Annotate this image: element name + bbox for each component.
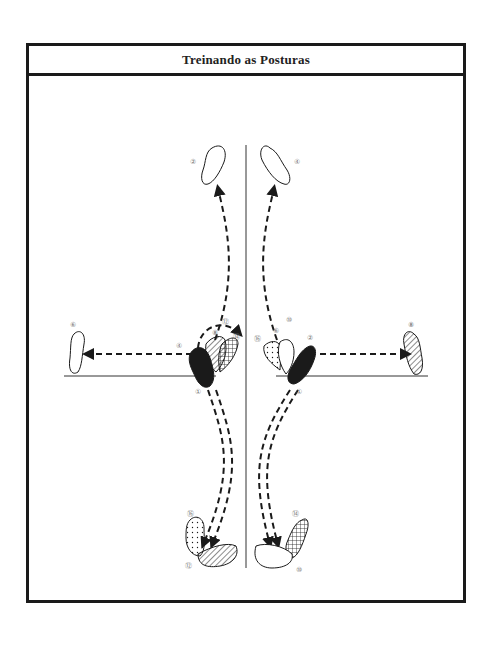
label-16-center: ⑯ [254, 335, 261, 343]
label-14: ⑭ [292, 510, 299, 518]
path-to-4 [263, 188, 277, 340]
path-to-10a [259, 390, 290, 545]
foot-8 [404, 332, 423, 375]
foot-4 [261, 146, 290, 184]
label-1-left: ① [195, 388, 201, 396]
label-8-center: ⑧ [212, 329, 218, 337]
label-6-center: ⑥ [273, 327, 279, 335]
foot-2 [202, 146, 226, 184]
label-4: ④ [294, 158, 300, 166]
label-2-center: ② [307, 334, 313, 342]
label-10-center: ⑩ [286, 316, 292, 324]
label-4-center: ④ [176, 342, 182, 350]
label-16: ⑯ [187, 510, 194, 518]
label-14-center: ⑭ [233, 333, 240, 341]
foot-6 [69, 332, 84, 374]
footwork-diagram: ② ④ ⑥ ⑧ ④ ⑧ ⑫ ⑭ ① ⑯ ⑥ ⑩ ② ① ⑯ ⑫ ⑭ ⑩ [0, 0, 491, 646]
label-12: ⑫ [185, 562, 192, 570]
path-to-10b [267, 390, 298, 545]
label-10: ⑩ [296, 566, 302, 574]
label-8: ⑧ [408, 321, 414, 329]
label-1-right: ① [296, 388, 302, 396]
label-2: ② [190, 158, 196, 166]
foot-16 [186, 517, 204, 556]
label-12-center: ⑫ [222, 318, 229, 326]
label-6: ⑥ [70, 321, 76, 329]
